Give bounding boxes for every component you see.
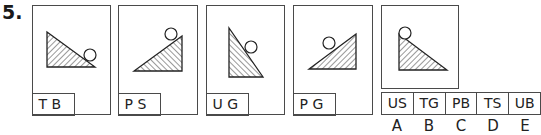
panel-label: P S — [118, 93, 161, 116]
answer-letter-a: A — [381, 117, 413, 135]
ball-icon — [165, 28, 177, 40]
answer-options: US TG PB TS UB — [381, 92, 541, 115]
panel-label: T B — [32, 93, 75, 116]
answer-option-e[interactable]: UB — [509, 93, 540, 114]
answer-letter-c: C — [445, 117, 477, 135]
ball-icon — [399, 27, 411, 39]
answer-letter-d: D — [477, 117, 509, 135]
figure-panel-3: U G — [206, 5, 285, 115]
target-figure-panel — [381, 5, 459, 89]
answer-letter-b: B — [413, 117, 445, 135]
question-number: 5. — [2, 1, 22, 23]
answer-letter-e: E — [509, 117, 541, 135]
hatched-incline — [229, 28, 263, 77]
answer-option-d[interactable]: TS — [477, 93, 509, 114]
answer-option-a[interactable]: US — [382, 93, 414, 114]
ball-icon — [84, 49, 96, 61]
answer-option-b[interactable]: TG — [414, 93, 446, 114]
answer-letters: A B C D E — [381, 117, 541, 135]
hatched-incline — [134, 36, 182, 71]
ball-icon — [323, 37, 335, 49]
incline-ball-figure — [382, 6, 460, 90]
figure-panel-4: P G — [293, 5, 373, 115]
ball-icon — [245, 41, 257, 53]
figure-panel-2: P S — [118, 5, 198, 115]
panel-label: P G — [293, 93, 336, 116]
answer-option-c[interactable]: PB — [446, 93, 478, 114]
panel-label: U G — [206, 93, 249, 116]
figure-panel-1: T B — [32, 5, 111, 115]
